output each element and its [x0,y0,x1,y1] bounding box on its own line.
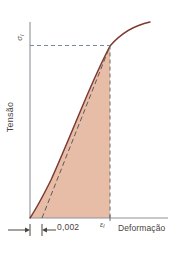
yield-stress-subscript: l [19,35,25,36]
y-axis-title: Tensão [5,94,15,140]
yield-stress-symbol: σ [15,36,24,41]
yield-strain-label: εl [100,220,105,229]
yield-strain-subscript: l [103,223,104,229]
offset-value-label: 0,002 [57,222,79,232]
yield-stress-label: σl [15,35,24,51]
stress-strain-figure: Tensão Deformação 0,002 σl εl [0,0,174,254]
origin-measure-arrow-head [25,228,30,233]
plot-canvas [0,0,174,254]
x-axis-title: Deformação [118,223,165,233]
